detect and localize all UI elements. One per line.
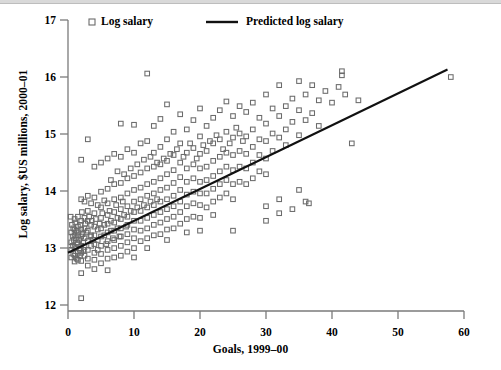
data-point-marker <box>165 227 170 232</box>
data-point-marker <box>317 98 322 103</box>
data-point-marker <box>191 146 196 151</box>
data-point-marker <box>119 207 124 212</box>
data-point-marker <box>125 249 130 254</box>
data-point-marker <box>145 71 150 76</box>
data-point-marker <box>86 256 91 261</box>
data-point-marker <box>112 246 117 251</box>
data-point-marker <box>86 137 91 142</box>
data-point-marker <box>224 99 229 104</box>
data-point-marker <box>277 211 282 216</box>
data-point-marker <box>211 174 216 179</box>
data-point-marker <box>105 201 110 206</box>
data-point-marker <box>105 256 110 261</box>
data-point-marker <box>218 108 223 113</box>
data-point-marker <box>158 117 163 122</box>
data-point-marker <box>145 226 150 231</box>
data-point-marker <box>171 181 176 186</box>
axes-group <box>68 20 464 311</box>
data-point-marker <box>264 204 269 209</box>
data-point-marker <box>138 228 143 233</box>
data-point-marker <box>323 89 328 94</box>
data-point-marker <box>303 199 308 204</box>
data-point-marker <box>191 176 196 181</box>
data-point-marker <box>218 154 223 159</box>
data-point-marker <box>257 169 262 174</box>
data-point-marker <box>356 98 361 103</box>
data-point-marker <box>270 131 275 136</box>
data-point-marker <box>99 261 104 266</box>
data-point-marker <box>112 152 117 157</box>
data-point-marker <box>138 197 143 202</box>
data-point-marker <box>310 83 315 88</box>
data-point-marker <box>165 172 170 177</box>
data-point-marker <box>277 83 282 88</box>
data-point-marker <box>297 133 302 138</box>
data-point-marker <box>125 147 130 152</box>
data-point-marker <box>297 79 302 84</box>
data-point-marker <box>231 114 236 119</box>
data-point-marker <box>105 239 110 244</box>
data-point-marker <box>112 210 117 215</box>
data-point-marker <box>115 169 120 174</box>
data-point-marker <box>251 100 256 105</box>
data-point-marker <box>307 201 312 206</box>
scatter-plot-figure: Log salary, $US millions, 2000–01 Goals,… <box>0 0 501 370</box>
data-point-marker <box>100 211 105 216</box>
data-point-marker <box>158 232 163 237</box>
data-point-marker <box>191 201 196 206</box>
data-point-marker <box>171 129 176 134</box>
data-point-marker <box>105 248 110 253</box>
data-point-marker <box>204 178 209 183</box>
data-point-marker <box>343 92 348 97</box>
data-point-marker <box>198 106 203 111</box>
data-point-marker <box>112 238 117 243</box>
data-point-marker <box>112 197 117 202</box>
data-point-marker <box>112 220 117 225</box>
data-point-marker <box>218 182 223 187</box>
data-point-marker <box>138 170 143 175</box>
data-point-marker <box>89 201 94 206</box>
data-point-marker <box>350 141 355 146</box>
data-point-marker <box>111 236 116 241</box>
data-point-marker <box>303 92 308 97</box>
data-point-marker <box>152 213 157 218</box>
data-point-marker <box>277 197 282 202</box>
data-point-marker <box>132 199 137 204</box>
data-point-marker <box>257 137 262 142</box>
data-point-marker <box>105 186 110 191</box>
data-point-marker <box>171 226 176 231</box>
data-point-marker <box>191 118 196 123</box>
data-point-marker <box>224 164 229 169</box>
legend-marker-square <box>89 19 95 25</box>
data-point-marker <box>171 168 176 173</box>
data-point-marker <box>194 156 199 161</box>
data-point-marker <box>303 118 308 123</box>
data-point-marker <box>158 188 163 193</box>
data-point-marker <box>198 180 203 185</box>
data-point-marker <box>284 104 289 109</box>
data-point-marker <box>132 255 137 260</box>
data-point-marker <box>92 257 97 262</box>
data-point-marker <box>152 191 157 196</box>
data-point-marker <box>99 216 104 221</box>
data-point-marker <box>178 112 183 117</box>
data-point-marker <box>297 188 302 193</box>
data-point-marker <box>244 134 249 139</box>
data-point-marker <box>145 182 150 187</box>
data-point-marker <box>198 191 203 196</box>
data-point-marker <box>201 143 206 148</box>
y-tick-marks <box>60 20 68 305</box>
data-point-marker <box>86 193 91 198</box>
data-point-marker <box>92 267 97 272</box>
data-point-marker <box>145 193 150 198</box>
data-point-marker <box>145 166 150 171</box>
data-point-marker <box>224 129 229 134</box>
data-point-marker <box>198 203 203 208</box>
data-point-marker <box>92 224 97 229</box>
data-point-marker <box>185 217 190 222</box>
data-point-marker <box>277 135 282 140</box>
data-point-marker <box>165 185 170 190</box>
data-point-marker <box>264 172 269 177</box>
plot-canvas <box>0 0 501 370</box>
data-point-marker <box>317 124 322 129</box>
